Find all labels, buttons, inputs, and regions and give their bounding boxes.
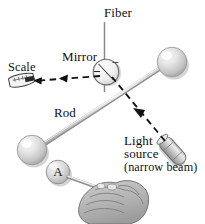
pointer-stick	[68, 176, 96, 187]
label-light-line3: (narrow beam)	[124, 161, 197, 173]
apparatus-drawing	[0, 0, 205, 224]
reflected-beam-dashed	[33, 75, 100, 85]
sphere-left	[17, 135, 49, 167]
label-scale: Scale	[8, 61, 36, 74]
label-fiber: Fiber	[104, 6, 132, 19]
label-light-line2: source	[124, 147, 197, 160]
figure-canvas: Fiber Mirror Scale Rod Light source (nar…	[0, 0, 205, 224]
label-light-line1: Light	[124, 134, 197, 147]
label-rod: Rod	[54, 106, 76, 119]
scale-ruler	[8, 71, 36, 88]
sphere-right	[157, 47, 189, 79]
label-mirror: Mirror	[62, 50, 97, 63]
label-sphere-a: A	[50, 164, 66, 180]
mirror-disc	[93, 59, 121, 86]
hand-illustration	[79, 181, 149, 224]
label-light-source: Light source (narrow beam)	[124, 134, 197, 173]
incident-beam-dashed	[112, 77, 165, 141]
